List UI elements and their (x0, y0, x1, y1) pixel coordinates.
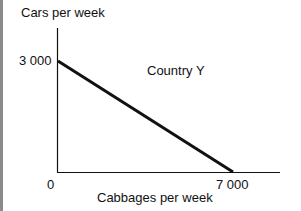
series-label: Country Y (147, 63, 205, 78)
chart-plot (0, 0, 301, 211)
x-tick-0: 0 (47, 177, 54, 192)
y-tick-3000: 3 000 (19, 53, 52, 68)
production-possibility-line (58, 61, 233, 172)
y-axis-label: Cars per week (21, 5, 105, 20)
x-axis-label: Cabbages per week (97, 190, 213, 205)
x-tick-7000: 7 000 (216, 177, 249, 192)
